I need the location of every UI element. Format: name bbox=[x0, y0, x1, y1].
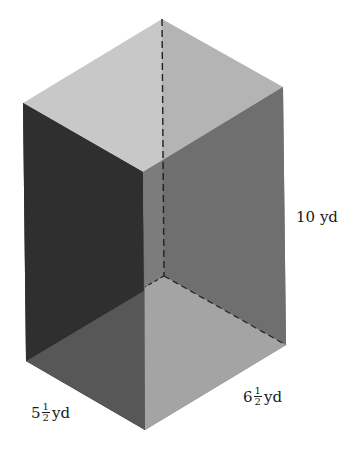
height-unit: yd bbox=[320, 208, 338, 226]
depth-fraction: 1 2 bbox=[42, 402, 50, 423]
depth-unit: yd bbox=[52, 404, 70, 422]
width-label: 6 1 2 yd bbox=[243, 386, 282, 407]
depth-label: 5 1 2 yd bbox=[31, 402, 70, 423]
width-unit: yd bbox=[264, 388, 282, 406]
rectangular-prism-figure bbox=[0, 0, 350, 463]
width-fraction: 1 2 bbox=[254, 386, 262, 407]
height-value: 10 bbox=[296, 208, 315, 226]
height-label: 10 yd bbox=[296, 208, 338, 226]
width-whole: 6 bbox=[243, 388, 253, 406]
depth-whole: 5 bbox=[31, 404, 41, 422]
front-right-strip bbox=[143, 161, 164, 287]
